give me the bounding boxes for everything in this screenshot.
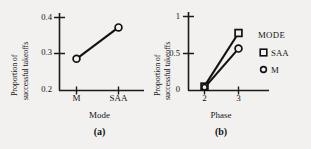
chart-panel-a: Proportion of successful takeoffs 0.4 0.… xyxy=(0,0,152,149)
panel-b-caption: (b) xyxy=(190,126,252,137)
panel-a-xtick-0: M xyxy=(62,93,91,103)
panel-a-data-point-SAA xyxy=(115,24,122,31)
legend-label-saa: SAA xyxy=(271,48,289,58)
panel-b-xtick-0: 2 xyxy=(192,93,217,103)
panel-b-data-line-M xyxy=(205,49,239,88)
panel-b-data-point-SAA-phase3 xyxy=(235,30,242,37)
panel-b-data-point-M-phase3 xyxy=(235,45,242,52)
legend-title: MODE xyxy=(258,30,289,40)
legend: MODE SAA M xyxy=(258,30,289,81)
legend-item-m[interactable]: M xyxy=(258,64,289,75)
panel-a-caption: (a) xyxy=(62,126,137,137)
circle-marker-icon xyxy=(258,64,269,75)
panel-b-data-line-SAA xyxy=(205,33,239,86)
panel-a-xtick-1: SAA xyxy=(102,93,135,103)
square-marker-icon xyxy=(258,47,269,58)
panel-a-data-line xyxy=(77,27,119,58)
figure-container: Proportion of successful takeoffs 0.4 0.… xyxy=(0,0,311,149)
legend-label-m: M xyxy=(271,65,279,75)
panel-b-data-point-M-phase2 xyxy=(202,85,207,90)
panel-a-data-point-M xyxy=(73,55,80,62)
panel-b-xtick-1: 3 xyxy=(226,93,251,103)
panel-a-x-axis-title: Mode xyxy=(62,110,137,120)
legend-item-saa[interactable]: SAA xyxy=(258,47,289,58)
panel-b-x-axis-title: Phase xyxy=(190,110,252,120)
